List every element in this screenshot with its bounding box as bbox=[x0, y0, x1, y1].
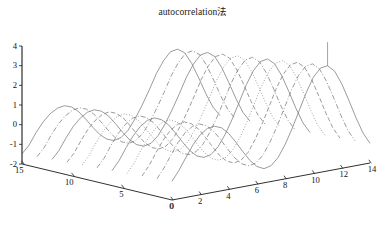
x-tick-label-6: 6 bbox=[255, 185, 259, 195]
x-tick-14 bbox=[369, 160, 371, 163]
y-tick-label-10: 10 bbox=[65, 177, 74, 187]
curve-trace-y-10-5 bbox=[67, 54, 265, 162]
x-tick-label-12: 12 bbox=[340, 169, 349, 179]
curve-trace-y-4-5 bbox=[127, 61, 325, 174]
x-tick-label-0: 0 bbox=[170, 201, 174, 211]
z-tick-label-3: 3 bbox=[13, 60, 17, 70]
x-tick-label-8: 8 bbox=[283, 180, 287, 190]
x-tick-label-2: 2 bbox=[198, 196, 202, 206]
z-tick-label-1: 1 bbox=[13, 100, 17, 110]
curve-trace-y-3 bbox=[142, 62, 340, 176]
z-tick-label-4: 4 bbox=[13, 41, 17, 51]
x-tick-label-14: 14 bbox=[368, 164, 377, 174]
curve-trace-y-0 bbox=[172, 66, 370, 182]
x-tick-label-4: 4 bbox=[226, 191, 230, 201]
curve-trace-y-13-5 bbox=[37, 51, 235, 157]
waterfall-3d-plot bbox=[0, 0, 386, 235]
z-tick-label-0: 0 bbox=[13, 119, 17, 129]
z-tick-label--1: -1 bbox=[10, 139, 17, 149]
z-tick-label-2: 2 bbox=[13, 80, 17, 90]
data-curves-group bbox=[22, 42, 370, 181]
y-tick-label-5: 5 bbox=[119, 189, 123, 199]
y-tick-label-15: 15 bbox=[15, 165, 24, 175]
curve-trace-y-1-5 bbox=[157, 64, 355, 179]
x-tick-label-10: 10 bbox=[311, 175, 320, 185]
y-depth-axis-line bbox=[22, 164, 172, 200]
